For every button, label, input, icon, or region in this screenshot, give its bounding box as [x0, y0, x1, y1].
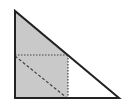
triangle-diagram — [0, 0, 124, 108]
